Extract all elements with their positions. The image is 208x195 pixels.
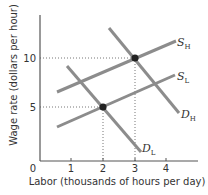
- label-d-high: DH: [180, 108, 196, 123]
- labor-market-chart: 0 1 2 3 4 5 10 Labor (thousands of hours…: [0, 0, 208, 195]
- x-tick-label-3: 3: [132, 163, 138, 174]
- equilibrium-point-high: [131, 54, 138, 61]
- x-tick-label-1: 1: [68, 163, 74, 174]
- x-tick-label-2: 2: [100, 163, 106, 174]
- equilibrium-point-low: [99, 103, 106, 110]
- curve-s-high: [57, 41, 176, 92]
- y-tick-label-5: 5: [30, 102, 36, 113]
- x-tick-label-4: 4: [163, 163, 169, 174]
- label-d-low: DL: [141, 142, 156, 157]
- x-tick-label-0: 0: [30, 163, 36, 174]
- x-axis-title: Labor (thousands of hours per day): [29, 176, 206, 187]
- label-s-high: SH: [177, 36, 191, 51]
- y-axis-title: Wage rate (dollars per hour): [8, 4, 19, 146]
- y-tick-label-10: 10: [23, 53, 36, 64]
- label-s-low: SL: [177, 70, 190, 85]
